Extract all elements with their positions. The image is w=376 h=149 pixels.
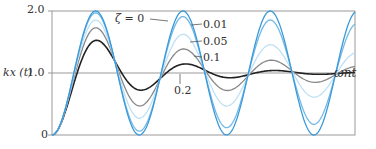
zeta0-label: ζ = 0 [115,12,144,25]
zeta005-label: 0.05 [203,35,228,48]
y-tick-2: 2.0 [27,3,45,16]
zeta001-label: 0.01 [203,18,228,31]
zeta02-label: 0.2 [174,84,192,97]
response-plot [0,0,376,149]
y-axis-label: kx (t) [3,66,32,79]
x-axis-label: ωnt [334,66,356,80]
zeta01-label: 0.1 [203,51,221,64]
y-tick-0: 0 [41,128,48,141]
